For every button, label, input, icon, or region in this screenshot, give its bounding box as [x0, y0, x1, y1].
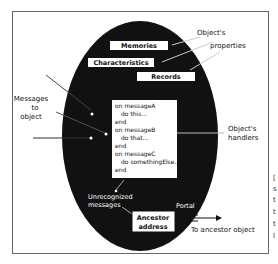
- ancestor-address-box: Ancestor address: [132, 211, 175, 232]
- edge-char: t: [273, 196, 276, 204]
- portal-label: Portal: [176, 202, 195, 210]
- properties-label-line2: properties: [210, 42, 246, 50]
- edge-char: s: [273, 185, 277, 193]
- messages-label-line2: to: [31, 104, 38, 112]
- handler-line: end: [115, 166, 126, 173]
- message-arrow-3-head: [90, 137, 93, 140]
- message-arrow-1-head: [91, 113, 94, 116]
- handler-line: end: [115, 142, 126, 149]
- property-box-characteristics: Characteristics: [88, 58, 154, 67]
- property-box-records: Records: [137, 72, 195, 81]
- ancestor-label-line2: address: [138, 223, 167, 231]
- handler-line: on messageB: [115, 126, 155, 134]
- ancestor-label-line1: Ancestor: [137, 214, 170, 222]
- ancestor-object-label: To ancestor object: [190, 226, 255, 234]
- handlers-label-line1: Object's: [228, 125, 257, 133]
- records-label: Records: [151, 73, 181, 81]
- edge-char: t: [273, 208, 276, 216]
- properties-label-line1: Object's: [197, 29, 226, 37]
- handler-line: do that...: [121, 134, 148, 141]
- memories-label: Memories: [121, 42, 157, 50]
- handler-line: do this...: [121, 110, 147, 117]
- handler-line: on messageA: [115, 102, 156, 110]
- unrecognized-label-line1: Unrecognized: [88, 193, 133, 201]
- characteristics-label: Characteristics: [93, 59, 148, 67]
- property-box-memories: Memories: [110, 41, 168, 50]
- edge-char: [: [273, 174, 276, 182]
- edge-char: I: [273, 232, 275, 240]
- object-diagram: Memories Characteristics Records Object'…: [0, 0, 278, 264]
- edge-char: t: [273, 220, 276, 228]
- unrecognized-dot: [115, 190, 118, 193]
- cropped-edge-text: [ s t t t I: [273, 174, 277, 240]
- message-arrow-2-head: [105, 133, 108, 136]
- messages-label-line1: Messages: [14, 95, 49, 103]
- handlers-box: on messageA do this... end on messageB d…: [112, 100, 180, 178]
- handler-line: do somethingElse...: [121, 158, 180, 166]
- handler-line: end: [115, 118, 126, 125]
- handlers-label-line2: handlers: [228, 134, 259, 142]
- messages-label-line3: object: [20, 113, 42, 121]
- unrecognized-label-line2: messages: [88, 201, 121, 209]
- handler-line: on messageC: [115, 150, 156, 158]
